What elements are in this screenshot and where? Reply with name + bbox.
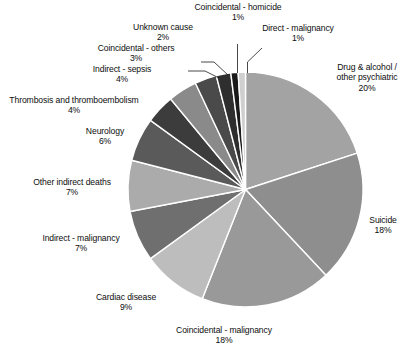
slice-label-value: 9% — [78, 302, 174, 312]
slice-label-name: Coincidental - homicide — [162, 2, 314, 12]
slice-label-value: 4% — [2, 105, 146, 115]
slice-label-name: Coincidental - others — [80, 43, 192, 53]
slice-label-unknown-cause: Unknown cause 2% — [117, 22, 209, 43]
leader-line-direct-malignancy — [248, 48, 263, 73]
slice-label-name: Indirect - sepsis — [74, 64, 170, 74]
slice-label-value: 20% — [319, 83, 415, 93]
slice-label-name: Coincidental - malignancy — [148, 325, 300, 335]
slice-label-name: Other indirect deaths — [19, 177, 125, 187]
slice-label-neurology: Neurology 6% — [62, 126, 148, 147]
slice-label-other-indirect-deaths: Other indirect deaths 7% — [19, 177, 125, 198]
slice-label-value: 7% — [19, 187, 125, 197]
slice-label-direct-malignancy: Direct - malignancy 1% — [239, 23, 357, 44]
slice-label-cardiac-disease: Cardiac disease 9% — [78, 292, 174, 313]
slice-label-value: 2% — [117, 32, 209, 42]
slice-label-name: Cardiac disease — [78, 292, 174, 302]
slice-label-drug-alcohol: Drug & alcohol / other psychiatric 20% — [319, 62, 415, 93]
slice-label-value: 18% — [148, 335, 300, 345]
slice-label-name-line2: other psychiatric — [319, 72, 415, 82]
slice-label-value: 6% — [62, 136, 148, 146]
slice-label-name-line1: Drug & alcohol / — [319, 62, 415, 72]
slice-label-value: 4% — [74, 74, 170, 84]
slice-label-name: Unknown cause — [117, 22, 209, 32]
leader-line-unknown-cause — [201, 62, 228, 75]
slice-label-name: Suicide — [354, 215, 412, 225]
slice-label-suicide: Suicide 18% — [354, 215, 412, 236]
slice-label-indirect-sepsis: Indirect - sepsis 4% — [74, 64, 170, 85]
slice-label-value: 3% — [80, 53, 192, 63]
pie-chart: Coincidental - homicide 1% Direct - mali… — [0, 0, 416, 353]
slice-label-indirect-malignancy: Indirect - malignancy 7% — [29, 233, 133, 254]
slice-label-name: Thrombosis and thromboembolism — [2, 95, 146, 105]
slice-label-value: 18% — [354, 225, 412, 235]
slice-label-coincidental-others: Coincidental - others 3% — [80, 43, 192, 64]
pie-slice-group — [128, 72, 363, 307]
slice-label-thrombosis: Thrombosis and thromboembolism 4% — [2, 95, 146, 116]
slice-label-coincidental-malignancy: Coincidental - malignancy 18% — [148, 325, 300, 346]
slice-label-value: 7% — [29, 243, 133, 253]
slice-label-name: Direct - malignancy — [239, 23, 357, 33]
slice-label-value: 1% — [239, 33, 357, 43]
slice-label-name: Neurology — [62, 126, 148, 136]
slice-label-name: Indirect - malignancy — [29, 233, 133, 243]
slice-label-coincidental-homicide: Coincidental - homicide 1% — [162, 2, 314, 23]
